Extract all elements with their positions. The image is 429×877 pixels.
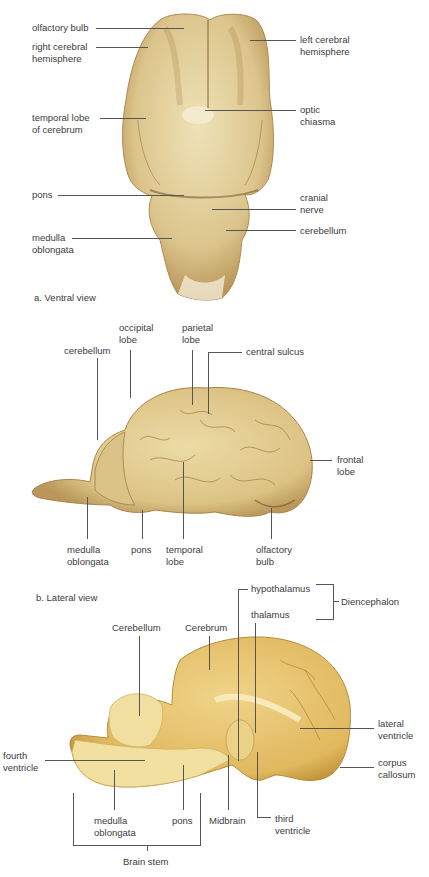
label-corpus-callosum: corpus callosum <box>378 757 416 780</box>
leader-line <box>300 728 374 729</box>
leader-line <box>87 497 88 539</box>
leader-line <box>96 47 148 48</box>
leader-line <box>72 238 172 239</box>
brain-stem-bracket <box>147 845 148 851</box>
leader-line <box>96 28 184 29</box>
leader-line <box>238 589 239 761</box>
label-brain-stem: Brain stem <box>123 856 168 868</box>
label-cerebrum: Cerebrum <box>185 622 227 634</box>
label-medulla-oblongata-b: medulla oblongata <box>67 544 109 567</box>
lateral-view-brain <box>32 387 312 516</box>
label-frontal-lobe: frontal lobe <box>337 454 363 477</box>
leader-line <box>228 755 229 810</box>
caption-ventral-view: a. Ventral view <box>34 292 96 303</box>
label-olfactory-bulb-b: olfactory bulb <box>256 544 292 567</box>
label-pons-c: pons <box>172 815 193 827</box>
caption-lateral-view: b. Lateral view <box>36 592 97 603</box>
leader-line <box>250 40 296 41</box>
label-optic-chiasma: optic chiasma <box>300 104 335 127</box>
leader-line <box>142 510 143 539</box>
leader-line <box>208 352 209 414</box>
leader-line <box>310 460 332 461</box>
leader-line <box>114 770 115 810</box>
leader-line <box>226 230 296 231</box>
label-occipital-lobe: occipital lobe <box>119 322 153 345</box>
brain-stem-bracket <box>73 845 201 846</box>
leader-line <box>192 350 193 405</box>
leader-line <box>183 765 184 810</box>
diencephalon-bracket <box>333 584 334 620</box>
label-lateral-ventricle: lateral ventricle <box>378 718 413 741</box>
leader-line <box>205 110 296 111</box>
label-temporal-lobe-a: temporal lobe of cerebrum <box>32 112 90 135</box>
leader-line <box>212 209 296 210</box>
leader-line <box>130 350 131 398</box>
ventral-view-brain <box>123 14 274 300</box>
leader-line <box>340 767 374 768</box>
leader-line <box>255 623 256 733</box>
brain-stem-bracket <box>200 793 201 845</box>
leader-line <box>238 589 248 590</box>
label-cerebellum-c: Cerebellum <box>112 622 161 634</box>
label-thalamus: thalamus <box>251 609 290 621</box>
leader-line <box>183 462 184 539</box>
label-pons-a: pons <box>32 189 53 201</box>
label-cranial-nerve: cranial nerve <box>300 192 328 215</box>
label-medulla-oblongata-c: medulla oblongata <box>94 815 136 838</box>
label-temporal-lobe-b: temporal lobe <box>166 544 203 567</box>
leader-line <box>139 636 140 716</box>
leader-line <box>271 508 272 539</box>
leader-line <box>208 352 242 353</box>
label-cerebellum-a: cerebellum <box>300 225 346 237</box>
label-central-sulcus: central sulcus <box>246 346 304 358</box>
label-medulla-oblongata-a: medulla oblongata <box>32 232 74 255</box>
label-parietal-lobe: parietal lobe <box>182 322 213 345</box>
leader-line <box>58 195 184 196</box>
diencephalon-bracket <box>333 601 339 602</box>
label-fourth-ventricle: fourth ventricle <box>3 750 38 773</box>
label-right-cerebral-hemisphere: right cerebral hemisphere <box>32 41 87 64</box>
label-left-cerebral-hemisphere: left cerebral hemisphere <box>300 34 350 57</box>
diencephalon-bracket <box>316 619 333 620</box>
sagittal-view-brain <box>70 637 350 787</box>
label-pons-b: pons <box>131 544 152 556</box>
diencephalon-bracket <box>316 584 333 585</box>
leader-line <box>257 752 258 817</box>
brain-stem-bracket <box>73 793 74 845</box>
leader-line <box>209 636 210 670</box>
label-hypothalamus: hypothalamus <box>251 583 310 595</box>
label-diencephalon: Diencephalon <box>341 596 399 608</box>
label-midbrain: Midbrain <box>209 815 245 827</box>
label-olfactory-bulb-a: olfactory bulb <box>32 22 89 34</box>
leader-line <box>45 760 145 761</box>
leader-line <box>100 118 146 119</box>
label-cerebellum-b: cerebellum <box>64 345 110 357</box>
leader-line <box>257 817 271 818</box>
label-third-ventricle: third ventricle <box>275 813 310 836</box>
leader-line <box>97 358 98 440</box>
